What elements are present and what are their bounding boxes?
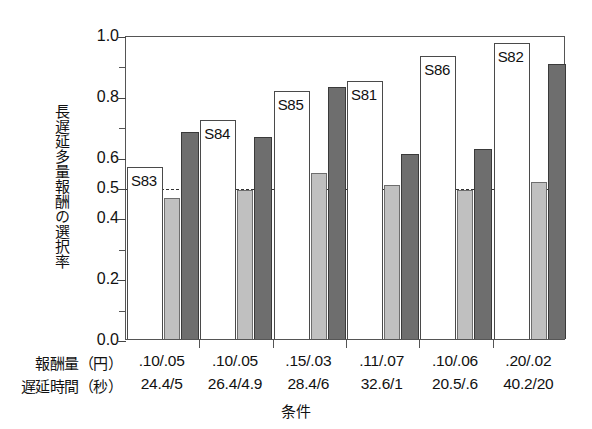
bar-white: S86 bbox=[420, 56, 456, 339]
bar-dark-gray bbox=[181, 132, 199, 339]
delay-value: 24.4/5 bbox=[126, 375, 198, 393]
bar-subject-label: S83 bbox=[131, 172, 157, 189]
y-tick-mark bbox=[117, 159, 126, 160]
x-tick-mark bbox=[419, 339, 420, 348]
y-tick-mark bbox=[117, 219, 126, 220]
bar-light-gray bbox=[531, 182, 547, 339]
x-tick-mark bbox=[493, 339, 494, 348]
bar-dark-gray bbox=[548, 64, 566, 339]
bar-light-gray bbox=[164, 198, 180, 339]
x-tick-mark bbox=[346, 339, 347, 348]
bar-light-gray bbox=[311, 173, 327, 339]
y-tick-label: 1.0 bbox=[79, 27, 119, 45]
delay-value: 40.2/20 bbox=[492, 375, 564, 393]
bar-group: S84 bbox=[199, 37, 272, 339]
bar-subject-label: S85 bbox=[278, 96, 304, 113]
y-tick-mark bbox=[117, 37, 126, 38]
reward-value: .10/.05 bbox=[199, 352, 271, 370]
bar-light-gray bbox=[237, 190, 253, 339]
bar-light-gray bbox=[457, 190, 473, 339]
x-tick-mark bbox=[199, 339, 200, 348]
y-tick-mark-minor bbox=[119, 250, 126, 251]
bar-subject-label: S82 bbox=[498, 48, 524, 65]
bar-subject-label: S81 bbox=[351, 86, 377, 103]
x-axis-title: 条件 bbox=[0, 400, 592, 421]
y-tick-mark bbox=[117, 189, 126, 190]
bar-group: S85 bbox=[273, 37, 346, 339]
plot-area: S83S84S85S81S86S82 bbox=[125, 36, 565, 340]
bar-group: S81 bbox=[346, 37, 419, 339]
y-tick-mark-minor bbox=[119, 311, 126, 312]
bar-dark-gray bbox=[254, 137, 272, 339]
y-tick-mark-minor bbox=[119, 128, 126, 129]
bar-white: S81 bbox=[347, 81, 383, 339]
bar-white: S83 bbox=[127, 167, 163, 339]
y-tick-mark bbox=[117, 341, 126, 342]
bar-chart: 長遅延多量報酬の選択率 1.00.80.60.50.40.20.0 S83S84… bbox=[0, 0, 592, 429]
reward-value: .10/.05 bbox=[126, 352, 198, 370]
y-tick-label: 0.2 bbox=[79, 270, 119, 288]
bar-dark-gray bbox=[401, 154, 419, 339]
reward-value: .10/.06 bbox=[419, 352, 491, 370]
reward-value: .20/.02 bbox=[492, 352, 564, 370]
bar-group: S86 bbox=[419, 37, 492, 339]
y-tick-label: 0.6 bbox=[79, 149, 119, 167]
bar-white: S82 bbox=[494, 43, 530, 339]
bar-subject-label: S86 bbox=[424, 61, 450, 78]
y-tick-label: 0.5 bbox=[79, 179, 119, 197]
bar-subject-label: S84 bbox=[204, 125, 230, 142]
reward-value: .11/.07 bbox=[346, 352, 418, 370]
y-tick-label: 0.4 bbox=[79, 209, 119, 227]
y-axis-label: 長遅延多量報酬の選択率 bbox=[44, 36, 70, 336]
y-tick-label: 0.8 bbox=[79, 88, 119, 106]
delay-row: 遅延時間（秒） 24.4/526.4/4.928.4/632.6/120.5/.… bbox=[0, 375, 592, 398]
delay-value: 32.6/1 bbox=[346, 375, 418, 393]
bar-dark-gray bbox=[474, 149, 492, 339]
bar-group: S82 bbox=[493, 37, 566, 339]
delay-value: 26.4/4.9 bbox=[199, 375, 271, 393]
bar-dark-gray bbox=[328, 87, 346, 339]
y-tick-mark bbox=[117, 280, 126, 281]
reward-row: 報酬量（円） .10/.05.10/.05.15/.03.11/.07.10/.… bbox=[0, 352, 592, 375]
x-tick-mark bbox=[273, 339, 274, 348]
delay-value: 28.4/6 bbox=[272, 375, 344, 393]
reward-value: .15/.03 bbox=[272, 352, 344, 370]
delay-value: 20.5/.6 bbox=[419, 375, 491, 393]
bar-light-gray bbox=[384, 185, 400, 339]
reward-row-label: 報酬量（円） bbox=[4, 352, 122, 373]
x-axis-condition-table: 報酬量（円） .10/.05.10/.05.15/.03.11/.07.10/.… bbox=[0, 352, 592, 398]
y-tick-mark bbox=[117, 98, 126, 99]
y-tick-label: 0.0 bbox=[79, 331, 119, 349]
y-tick-mark-minor bbox=[119, 67, 126, 68]
bar-white: S84 bbox=[200, 120, 236, 339]
bar-white: S85 bbox=[274, 91, 310, 339]
delay-row-label: 遅延時間（秒） bbox=[4, 375, 122, 396]
bar-group: S83 bbox=[126, 37, 199, 339]
